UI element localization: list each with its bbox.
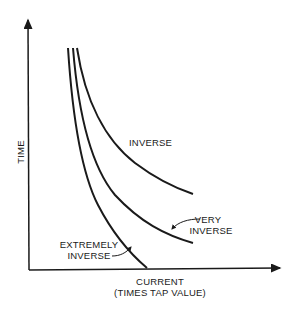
- label-inverse: INVERSE: [129, 137, 172, 148]
- curve-extremely-inverse: [68, 48, 147, 268]
- relay-curves-diagram: TIME INVERSE VERY INVERSE EXTREMELY INVE…: [0, 0, 295, 310]
- curve-inverse: [77, 48, 193, 194]
- label-very-inverse-line2: INVERSE: [189, 225, 232, 236]
- y-axis-label: TIME: [15, 140, 26, 164]
- x-axis: [29, 268, 280, 270]
- x-axis-label-line1: CURRENT: [136, 276, 184, 287]
- label-extremely-inverse-line1: EXTREMELY: [60, 239, 119, 250]
- y-axis: [28, 20, 29, 270]
- x-axis-label-line2: (TIMES TAP VALUE): [114, 287, 206, 298]
- label-extremely-inverse-line2: INVERSE: [67, 250, 110, 261]
